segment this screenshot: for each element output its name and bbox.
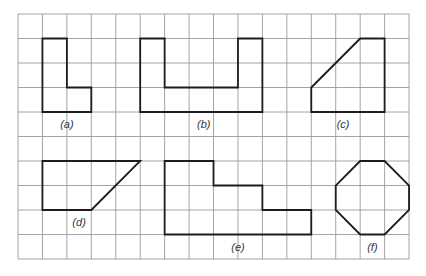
shape-label-f: (f) — [367, 241, 377, 253]
shape-label-b: (b) — [197, 118, 210, 130]
shape-label-c: (c) — [337, 118, 350, 130]
grid-figure — [0, 0, 426, 276]
shape-label-e: (e) — [231, 241, 244, 253]
shape-b — [140, 39, 262, 113]
shape-label-a: (a) — [60, 118, 73, 130]
shape-f — [336, 161, 409, 235]
shape-c — [311, 39, 384, 113]
shape-label-d: (d) — [72, 216, 85, 228]
